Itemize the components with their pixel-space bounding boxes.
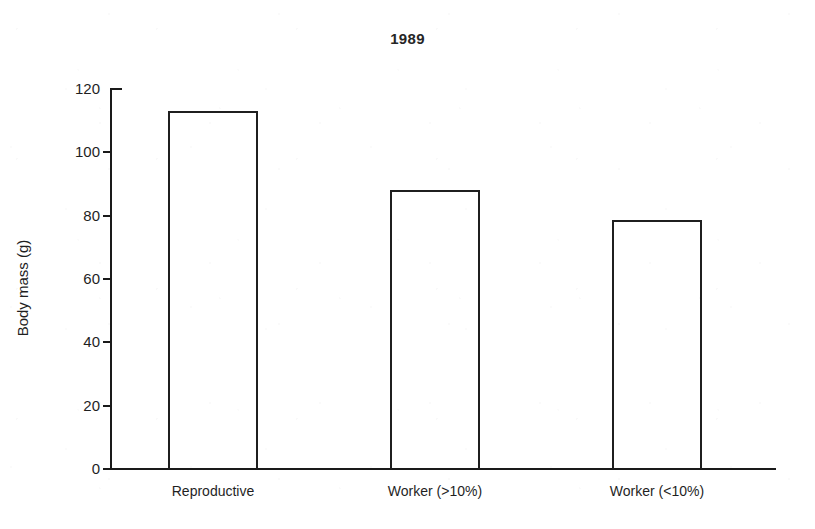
y-axis-tick-mark [103,151,112,153]
x-axis-category-label: Worker (<10%) [557,483,757,499]
y-axis-tick-mark [103,215,112,217]
y-axis-tick-mark [103,341,112,343]
bar-chart-figure: 1989 Body mass (g) 020406080100120 Repro… [0,0,815,529]
bar [390,190,480,469]
x-axis-category-label: Worker (>10%) [335,483,535,499]
x-axis-category-label: Reproductive [113,483,313,499]
bar [612,220,702,469]
y-axis-tick-mark [103,405,112,407]
y-axis-tick-mark [103,278,112,280]
y-axis-tick-mark [103,468,112,470]
bar [168,111,258,469]
plot-area: ReproductiveWorker (>10%)Worker (<10%) [0,0,815,529]
y-axis-top-cap [110,88,122,90]
